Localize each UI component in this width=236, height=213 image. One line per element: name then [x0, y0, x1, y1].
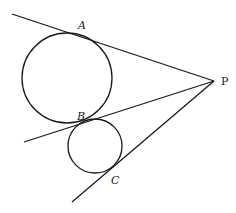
small-circle [68, 119, 122, 173]
geometry-diagram: A B C P [0, 0, 236, 213]
label-c: C [111, 174, 120, 187]
label-a: A [77, 19, 86, 32]
tangent-line-pc [72, 81, 214, 202]
tangent-line-pa [12, 14, 214, 81]
large-circle [22, 33, 112, 123]
label-b: B [76, 110, 85, 123]
label-p: P [221, 75, 229, 88]
